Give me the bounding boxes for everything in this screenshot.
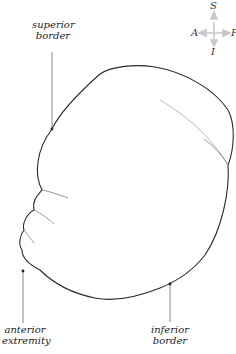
anatomical-diagram: S I A P superior border anterior extremi… [0,0,236,354]
anterior-extremity-label: anterior extremity [2,324,48,346]
inferior-border-label: inferior border [148,324,192,346]
superior-border-point [51,128,54,131]
compass-superior: S [210,1,217,11]
anterior-extremity-point [22,270,25,273]
posterior-inner-curve [160,100,228,165]
compass-posterior: P [231,28,236,38]
fissure-1 [42,190,68,198]
compass-inferior: I [211,47,215,57]
fissure-3 [24,230,34,243]
compass-anterior: A [191,28,198,38]
inferior-border-point [169,283,172,286]
fissure-2 [34,210,54,224]
superior-border-label: superior border [32,19,74,41]
posterior-edge-curve [204,139,228,165]
organ-outline-svg [0,0,236,354]
compass-arrows [199,12,230,46]
